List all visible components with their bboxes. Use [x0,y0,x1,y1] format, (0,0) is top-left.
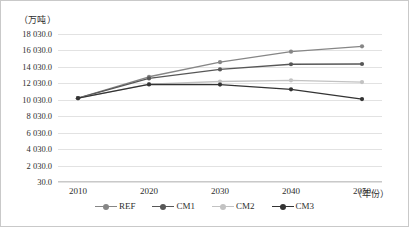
legend-item-cm3[interactable]: CM3 [272,202,315,211]
y-axis-tick-label: 2 030.0 [0,161,52,170]
series-ref [76,44,364,100]
data-point [147,82,151,86]
y-axis-tick-label: 16 030.0 [0,46,52,55]
legend-item-ref[interactable]: REF [95,202,136,211]
legend-marker-icon [212,203,234,210]
data-point [360,44,364,48]
data-point [147,76,151,80]
data-point [360,62,364,66]
series-layer [58,34,382,182]
x-axis-title: （年份） [353,187,389,200]
legend-marker-icon [272,203,294,210]
data-point [218,82,222,86]
legend-item-label: CM1 [176,202,195,211]
data-point [76,96,80,100]
y-axis-tick-label: 12 030.0 [0,79,52,88]
data-point [289,62,293,66]
line-chart: （万吨） 18 030.016 030.014 030.012 030.010 … [0,0,409,227]
legend-item-label: REF [119,202,136,211]
data-point [218,67,222,71]
y-axis-tick-label: 30.0 [0,178,52,187]
plot-area [58,34,382,182]
y-axis-unit-label: （万吨） [19,13,56,26]
data-point [289,50,293,54]
legend-marker-icon [152,203,174,210]
y-axis-tick-label: 6 030.0 [0,128,52,137]
series-cm2 [76,78,364,100]
y-axis-tick-label: 4 030.0 [0,145,52,154]
x-axis-tick-label: 2040 [282,187,300,196]
data-point [218,60,222,64]
legend-item-label: CM3 [296,202,315,211]
data-point [289,87,293,91]
y-axis-tick-label: 8 030.0 [0,112,52,121]
chart-legend: REFCM1CM2CM3 [1,202,408,211]
gridline [58,182,382,183]
legend-item-cm2[interactable]: CM2 [212,202,255,211]
data-point [289,78,293,82]
y-axis-tick-label: 10 030.0 [0,96,52,105]
data-point [360,97,364,101]
y-axis-tick-label: 18 030.0 [0,30,52,39]
y-axis-tick-label: 14 030.0 [0,63,52,72]
data-point [360,80,364,84]
x-axis-tick-label: 2030 [211,187,229,196]
x-axis-tick-label: 2010 [69,187,87,196]
legend-marker-icon [95,203,117,210]
legend-item-cm1[interactable]: CM1 [152,202,195,211]
legend-item-label: CM2 [236,202,255,211]
x-axis-tick-label: 2020 [140,187,158,196]
